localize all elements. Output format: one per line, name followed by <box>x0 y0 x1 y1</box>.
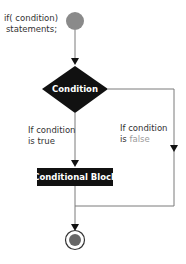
edge-false <box>75 89 174 206</box>
false-edge-label: If condition is false <box>120 123 168 145</box>
true-label-value: true <box>38 136 55 146</box>
true-edge-label: If condition is true <box>28 125 76 147</box>
true-label-line1: If condition <box>28 125 76 136</box>
code-label: if( condition) statements; <box>4 13 57 35</box>
code-line-2: statements; <box>4 24 57 35</box>
false-label-prefix: is <box>120 134 130 144</box>
false-label-line1: If condition <box>120 123 168 134</box>
true-label-prefix: is <box>28 136 38 146</box>
false-label-line2: is false <box>120 134 168 145</box>
end-node-core <box>69 234 81 246</box>
arrowhead-icon <box>170 145 178 152</box>
arrowhead-icon <box>71 58 79 65</box>
code-line-1: if( condition) <box>4 13 57 24</box>
false-label-value: false <box>130 134 150 144</box>
conditional-block-node: Conditional Block <box>37 168 113 186</box>
decision-label: Condition <box>42 84 108 94</box>
start-node <box>66 12 84 30</box>
true-label-line2: is true <box>28 136 76 147</box>
arrowhead-icon <box>71 160 79 167</box>
